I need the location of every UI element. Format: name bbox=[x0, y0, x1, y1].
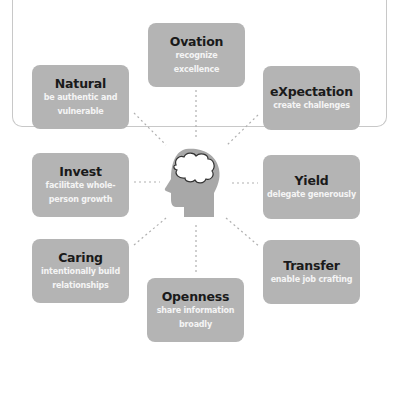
node-description: recognize excellence bbox=[148, 49, 245, 77]
node-caring: Caring intentionally build relationships bbox=[32, 239, 129, 303]
node-title: Openness bbox=[162, 289, 230, 304]
node-title: Caring bbox=[58, 250, 103, 265]
node-description: share information broadly bbox=[150, 304, 242, 332]
node-yield: Yield delegate generously bbox=[263, 155, 360, 219]
head-with-brain-icon bbox=[162, 147, 224, 219]
node-natural: Natural be authentic and vulnerable bbox=[32, 65, 129, 129]
node-invest: Invest facilitate whole-person growth bbox=[32, 153, 129, 217]
node-title: Transfer bbox=[283, 258, 340, 273]
node-description: facilitate whole-person growth bbox=[38, 179, 124, 207]
node-openness: Openness share information broadly bbox=[147, 278, 244, 342]
node-transfer: Transfer enable job crafting bbox=[263, 240, 360, 304]
node-title: Natural bbox=[55, 76, 106, 91]
node-description: delegate generously bbox=[263, 188, 360, 202]
node-description: create challenges bbox=[269, 99, 354, 113]
node-description: be authentic and vulnerable bbox=[37, 91, 125, 119]
node-title: eXpectation bbox=[270, 84, 353, 99]
node-description: intentionally build relationships bbox=[35, 265, 127, 293]
node-title: Yield bbox=[294, 173, 328, 188]
node-ovation: Ovation recognize excellence bbox=[148, 23, 245, 87]
node-expectation: eXpectation create challenges bbox=[263, 66, 360, 130]
node-description: enable job crafting bbox=[267, 273, 357, 287]
node-title: Ovation bbox=[170, 34, 224, 49]
node-title: Invest bbox=[59, 164, 101, 179]
